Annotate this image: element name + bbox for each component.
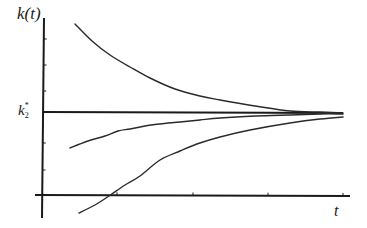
x-axis-label: t bbox=[334, 203, 338, 219]
steady-state-label-sub: 2 bbox=[25, 111, 29, 120]
y-axis bbox=[42, 18, 44, 218]
y-axis-label: k(t) bbox=[17, 5, 41, 22]
steady-state-label-sup: * bbox=[25, 101, 29, 110]
phase-chart bbox=[0, 0, 367, 228]
trajectory-curve-1 bbox=[75, 24, 343, 113]
steady-state-label: k2* bbox=[18, 102, 29, 120]
axes bbox=[35, 18, 350, 218]
trajectory-curves bbox=[70, 24, 343, 213]
axis-ticks bbox=[42, 39, 343, 196]
trajectory-curve-2 bbox=[70, 114, 343, 148]
steady-state-label-base: k bbox=[18, 102, 25, 118]
